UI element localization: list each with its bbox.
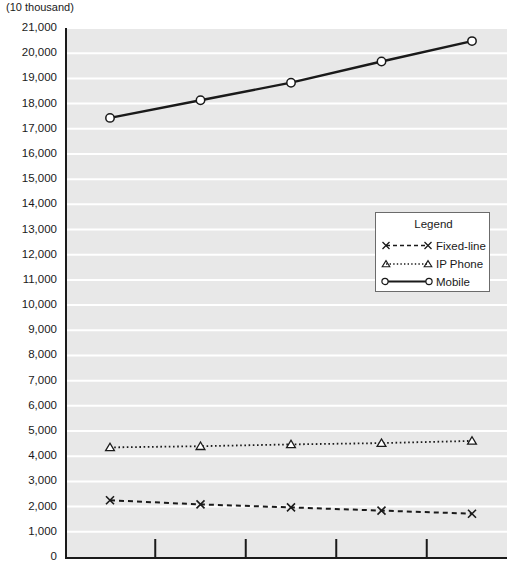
y-axis-tick-label: 11,000 [23,274,57,286]
legend-label-ip-phone: IP Phone [436,258,483,270]
data-point-marker [106,443,115,451]
data-point-marker [468,437,477,445]
circle-marker-icon [380,273,434,290]
data-point-marker [377,57,385,65]
y-axis-tick-label: 18,000 [22,98,57,110]
y-axis-tick-label: 4,000 [28,450,57,462]
legend: Legend Fixed-line IP Phone Mobi [375,212,490,292]
y-axis-tick-label: 5,000 [28,425,57,437]
legend-label-fixed-line: Fixed-line [436,240,486,252]
y-axis-tick-label: 8,000 [28,350,57,362]
triangle-marker-icon [380,255,434,272]
y-axis-tick-label: 7,000 [28,375,57,387]
data-point-marker [287,79,295,87]
y-axis-tick-label: 17,000 [22,123,57,135]
plot-area [65,28,507,559]
legend-item-ip-phone[interactable]: IP Phone [376,255,491,272]
data-point-marker [377,439,386,446]
y-axis-tick-label: 16,000 [22,148,57,160]
y-axis-tick-label: 14,000 [22,199,57,211]
y-axis-tick-label: 21,000 [22,22,57,34]
y-axis-tick-label: 10,000 [22,299,57,311]
legend-item-fixed-line[interactable]: Fixed-line [376,237,491,254]
data-point-marker [468,37,476,45]
series-ip-phone [106,437,477,451]
y-axis-tick-labels: 21,00020,00019,00018,00017,00016,00015,0… [0,0,65,570]
y-axis-tick-label: 19,000 [22,73,57,85]
y-axis-tick-label: 6,000 [28,400,57,412]
data-point-marker [468,510,476,518]
data-point-marker [196,96,204,104]
line-chart: (10 thousand) 21,00020,00019,00018,00017… [0,0,508,570]
y-axis-tick-label: 9,000 [28,325,57,337]
y-axis-tick-label: 0 [51,551,57,563]
plot-svg [67,28,507,557]
legend-item-mobile[interactable]: Mobile [376,273,491,290]
x-marker-icon [380,237,434,254]
y-axis-tick-label: 13,000 [22,224,57,236]
y-axis-tick-label: 3,000 [28,476,57,488]
y-axis-tick-label: 12,000 [22,249,57,261]
x-axis-ticks [155,539,427,557]
y-axis-tick-label: 15,000 [22,173,57,185]
legend-title: Legend [376,218,491,230]
legend-label-mobile: Mobile [436,276,470,288]
y-axis-tick-label: 20,000 [22,47,57,59]
y-axis-tick-label: 1,000 [28,526,57,538]
series-mobile [106,37,476,122]
data-point-marker [106,114,114,122]
y-axis-tick-label: 2,000 [28,501,57,513]
